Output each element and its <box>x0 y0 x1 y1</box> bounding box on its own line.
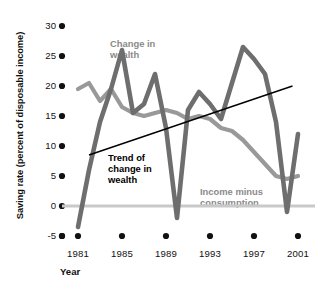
x-tick-dot-2001 <box>295 233 301 239</box>
y-tick-dot-20 <box>59 83 65 89</box>
x-tick-dot-1981 <box>75 233 81 239</box>
y-tick-dot-25 <box>59 53 65 59</box>
axis-origin-dot <box>59 233 65 239</box>
x-tick-dot-1985 <box>119 233 125 239</box>
y-tick-dot-10 <box>59 143 65 149</box>
x-tick-dot-1989 <box>163 233 169 239</box>
x-axis-tick-dots <box>59 233 301 239</box>
saving-rate-chart: Saving rate (percent of disposable incom… <box>0 0 322 290</box>
y-tick-dot-30 <box>59 23 65 29</box>
x-tick-dot-1997 <box>251 233 257 239</box>
plot-area <box>0 0 322 290</box>
y-tick-dot-15 <box>59 113 65 119</box>
trend-line-change-in-wealth <box>89 86 293 155</box>
line-change-in-wealth <box>78 47 298 227</box>
x-tick-dot-1993 <box>207 233 213 239</box>
y-tick-dot-5 <box>59 173 65 179</box>
